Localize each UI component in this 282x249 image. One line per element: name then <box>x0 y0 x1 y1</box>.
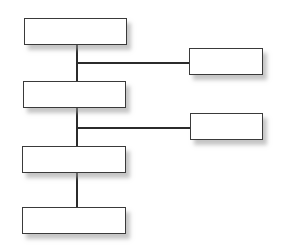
node-main-4 <box>22 207 126 234</box>
connector-branch-side-2 <box>77 127 190 129</box>
node-side-1 <box>189 48 263 75</box>
connector-branch-side-1 <box>77 62 189 64</box>
node-main-2 <box>23 81 126 108</box>
org-chart-diagram <box>0 0 282 249</box>
node-side-2 <box>190 113 263 140</box>
connector-trunk-3-4 <box>76 173 78 207</box>
node-main-1 <box>24 18 127 45</box>
node-main-3 <box>22 146 126 173</box>
